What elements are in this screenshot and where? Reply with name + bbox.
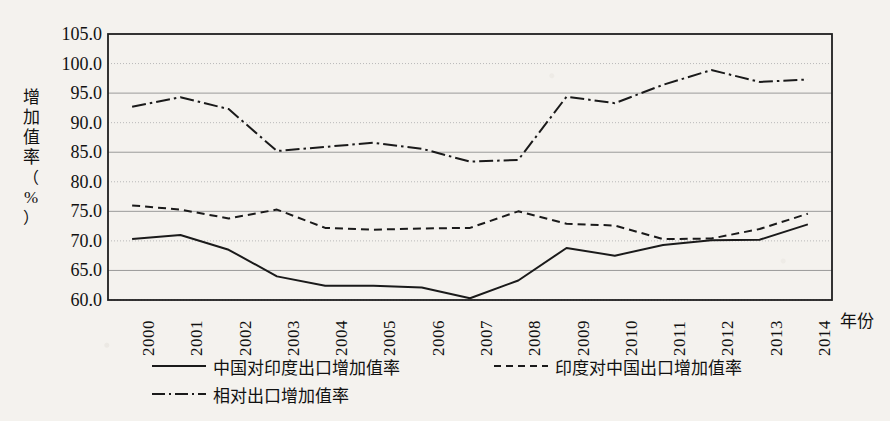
legend-item-china-to-india: 中国对印度出口增加值率 [150, 354, 400, 379]
series-line-1 [132, 224, 808, 298]
legend-label: 印度对中国出口增加值率 [555, 354, 742, 379]
legend-item-relative: 相对出口增加值率 [150, 382, 349, 407]
legend-swatch-dashed-icon [492, 359, 550, 373]
legend-label: 中国对印度出口增加值率 [213, 354, 400, 379]
chart-figure: 增 加 值 率 （ % ） 105.0100.095.090.085.080.0… [0, 0, 890, 421]
legend-swatch-solid-icon [150, 359, 208, 373]
series-line-2 [132, 205, 808, 239]
series-line-3 [132, 70, 808, 162]
x-axis-title: 年份 [840, 307, 874, 332]
legend-swatch-dashdot-icon [150, 387, 208, 401]
chart-legend: 中国对印度出口增加值率 印度对中国出口增加值率 相对出口增加值率 [150, 352, 870, 408]
legend-item-india-to-china: 印度对中国出口增加值率 [492, 354, 742, 379]
legend-label: 相对出口增加值率 [213, 382, 349, 407]
